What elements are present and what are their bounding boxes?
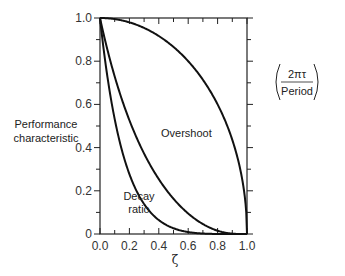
- left-paren: [276, 64, 280, 100]
- period-label-denominator: Period: [281, 85, 313, 97]
- decay-label-line2: ratio: [128, 203, 149, 215]
- x-tick-label: 0.2: [121, 239, 138, 253]
- y-axis-label: Performance characteristic: [0, 117, 92, 145]
- right-paren: [314, 64, 318, 100]
- y-axis-label-line2: characteristic: [0, 131, 92, 145]
- period-curve: [100, 18, 247, 234]
- plot-axes: [100, 18, 247, 234]
- x-tick-label: 0.0: [92, 239, 109, 253]
- curves: [100, 18, 247, 234]
- x-tick-label: 0.6: [180, 239, 197, 253]
- y-tick-label: 0: [85, 227, 92, 241]
- overshoot-curve: [100, 18, 247, 234]
- x-tick-label: 1.0: [239, 239, 256, 253]
- y-tick-label: 0.2: [75, 184, 92, 198]
- y-tick-label: 1.0: [75, 11, 92, 25]
- x-tick-label: 0.4: [150, 239, 167, 253]
- plot-frame: [100, 18, 247, 234]
- y-axis-label-line1: Performance: [0, 117, 92, 131]
- y-tick-label: 0.6: [75, 97, 92, 111]
- decay-label-line1: Decay: [123, 190, 155, 202]
- overshoot-label: Overshoot: [161, 127, 212, 139]
- decay-ratio-curve: [100, 18, 247, 234]
- x-tick-label: 0.8: [209, 239, 226, 253]
- period-label: 2πτ Period: [276, 64, 318, 100]
- period-label-numerator: 2πτ: [288, 68, 307, 80]
- y-tick-label: 0.8: [75, 54, 92, 68]
- x-axis-label: ζ: [160, 253, 190, 267]
